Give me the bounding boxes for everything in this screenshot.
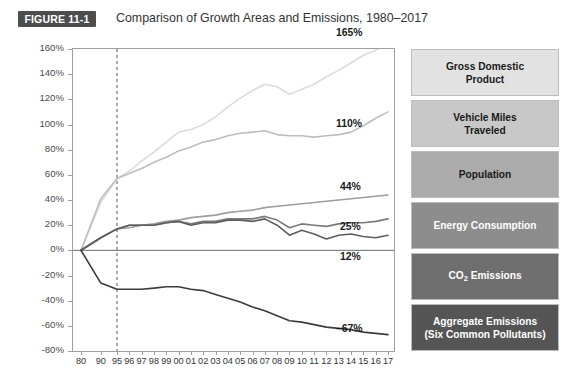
legend-item-4[interactable]: CO2 Emissions [411,253,559,300]
y-axis-tick-label: -80% [20,344,64,355]
legend-item-label: Aggregate Emissions(Six Common Pollutant… [424,315,545,341]
chart-lines [73,49,394,351]
legend-item-0[interactable]: Gross DomesticProduct [411,49,559,96]
plot-area [72,48,395,352]
chart-legend: Gross DomesticProductVehicle MilesTravel… [411,49,561,353]
y-axis-tick-label: 20% [20,218,64,229]
y-axis-tick-label: 60% [20,168,64,179]
x-axis-tick-label: 80 [72,356,90,366]
x-axis-tick-label: 17 [379,356,397,366]
y-axis-tick-label: 80% [20,143,64,154]
y-axis-tick-label: 0% [20,243,64,254]
legend-item-label: Gross DomesticProduct [446,60,524,86]
legend-item-label: Population [459,168,512,181]
legend-item-label: Vehicle MilesTraveled [453,111,516,137]
y-axis-tick-label: 140% [20,67,64,78]
legend-item-5[interactable]: Aggregate Emissions(Six Common Pollutant… [411,304,559,351]
series-value-label-4: 12% [340,251,361,262]
series-value-label-2: 44% [340,181,361,192]
y-axis-tick-label: -20% [20,269,64,280]
y-axis-tick-label: -60% [20,319,64,330]
series-value-label-0: 165% [336,27,363,38]
figure-header: FIGURE 11-1 Comparison of Growth Areas a… [0,0,568,40]
y-axis-tick-label: 120% [20,92,64,103]
figure-tag-label: FIGURE 11-1 [18,12,96,26]
legend-item-label: Energy Consumption [433,219,536,232]
y-axis-tick-label: -40% [20,294,64,305]
legend-item-3[interactable]: Energy Consumption [411,202,559,249]
y-axis-tick-label: 40% [20,193,64,204]
legend-item-1[interactable]: Vehicle MilesTraveled [411,100,559,147]
y-axis-tick-label: 160% [20,42,64,53]
y-axis-tick-label: 100% [20,118,64,129]
series-value-label-1: 110% [336,118,362,129]
legend-item-label: CO2 Emissions [448,269,521,285]
legend-item-2[interactable]: Population [411,151,559,198]
series-value-label-5: –67% [336,323,363,334]
page-title: Comparison of Growth Areas and Emissions… [116,11,428,25]
series-value-label-3: 25% [340,221,361,232]
